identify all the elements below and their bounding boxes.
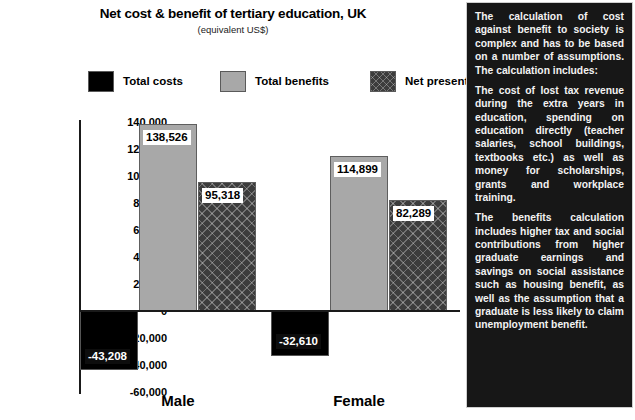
zero-axis-line [79,310,460,312]
chart-screenshot: Net cost & benefit of tertiary education… [0,0,635,420]
category-label-male: Male [118,392,238,409]
bar-male-total-benefits [139,124,197,311]
value-label-female-total-costs: -32,610 [276,334,321,349]
category-label-female: Female [299,392,419,409]
explanatory-note-panel: The calculation of cost against benefit … [466,2,633,408]
value-label-male-total-benefits: 138,526 [143,130,191,145]
chart-panel: Net cost & benefit of tertiary education… [0,0,466,420]
note-paragraph-3: The benefits calculation includes higher… [475,211,624,331]
note-paragraph-2: The cost of lost tax revenue during the … [475,84,624,204]
note-paragraph-1: The calculation of cost against benefit … [475,10,624,77]
value-label-male-total-costs: -43,208 [85,349,130,364]
bar-female-total-benefits [330,156,388,311]
value-label-female-net-present-value: 82,289 [393,206,434,221]
value-label-female-total-benefits: 114,899 [334,162,381,177]
value-label-male-net-present-value: 95,318 [202,188,243,203]
